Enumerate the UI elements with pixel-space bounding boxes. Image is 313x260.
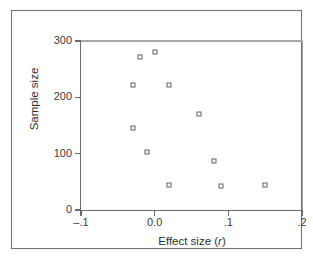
data-point bbox=[263, 183, 268, 188]
y-tick-mark bbox=[75, 153, 80, 154]
y-tick-label: 300 bbox=[38, 34, 72, 46]
y-tick-mark bbox=[75, 97, 80, 98]
y-axis-title: Sample size bbox=[28, 44, 40, 154]
data-point bbox=[167, 183, 172, 188]
x-tick-label: .2 bbox=[282, 216, 313, 228]
data-point bbox=[152, 49, 157, 54]
data-point bbox=[137, 54, 142, 59]
y-tick-label: 0 bbox=[38, 203, 72, 215]
x-tick-label: .1 bbox=[208, 216, 248, 228]
y-tick-mark bbox=[75, 209, 80, 210]
x-axis-title: Effect size (r) bbox=[81, 235, 303, 247]
data-point bbox=[218, 183, 223, 188]
y-tick-label: 100 bbox=[38, 147, 72, 159]
data-point bbox=[145, 149, 150, 154]
figure-frame: 0100200300 –.10.0.1.2 Sample size Effect… bbox=[11, 10, 302, 249]
y-tick-label: 200 bbox=[38, 90, 72, 102]
data-point bbox=[167, 82, 172, 87]
y-tick-mark bbox=[75, 40, 80, 41]
data-point bbox=[196, 112, 201, 117]
x-axis-title-text: Effect size ( bbox=[158, 235, 218, 247]
data-point bbox=[130, 125, 135, 130]
x-axis-title-close: ) bbox=[222, 235, 226, 247]
x-tick-label: –.1 bbox=[61, 216, 101, 228]
plot-area bbox=[81, 41, 302, 210]
data-point bbox=[130, 82, 135, 87]
x-tick-label: 0.0 bbox=[135, 216, 175, 228]
data-point bbox=[211, 158, 216, 163]
